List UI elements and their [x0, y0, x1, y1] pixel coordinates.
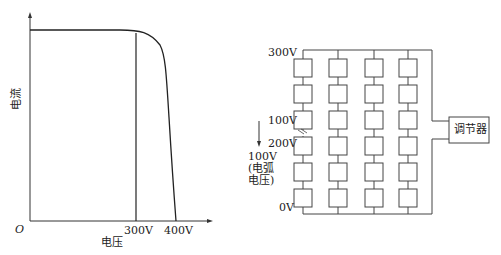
label-200v: 200V: [268, 138, 297, 150]
iv-curve: [30, 30, 176, 221]
label-300v: 300V: [268, 47, 297, 59]
cell-grid: [294, 59, 417, 207]
left-chart-axes: [30, 16, 210, 221]
origin-label: O: [15, 224, 24, 236]
label-100v: 100V: [268, 115, 297, 127]
y-axis-arrow-icon: [28, 12, 32, 18]
y-axis-label: 电流: [11, 88, 23, 110]
arc-voltage-line3: 电压): [248, 175, 274, 187]
diagram-canvas: [0, 0, 501, 255]
tick-300v: 300V: [124, 225, 153, 237]
x-axis-arrow-icon: [207, 219, 213, 223]
label-0v: 0V: [279, 202, 294, 214]
regulator-label: 调节器: [454, 124, 487, 136]
tick-400v: 400V: [164, 225, 193, 237]
x-axis-label: 电压: [101, 237, 123, 249]
